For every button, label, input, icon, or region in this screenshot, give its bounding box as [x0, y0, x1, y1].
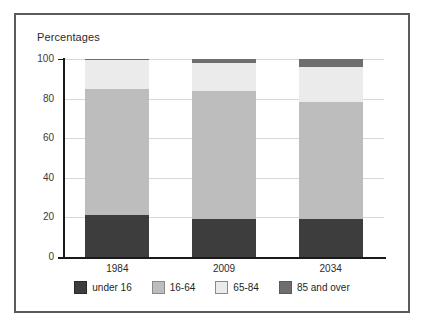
x-axis-label-2034: 2034: [286, 263, 376, 274]
bar-segment: [299, 219, 363, 257]
x-axis-line: [58, 257, 386, 259]
y-axis-tick-label: 80: [16, 94, 54, 104]
y-axis-tick-label: 100: [16, 54, 54, 64]
y-axis-tick-label: 60: [16, 133, 54, 143]
legend-item[interactable]: 65-84: [215, 281, 259, 294]
chart-legend: under 1616-6465-8485 and over: [16, 281, 408, 294]
legend-label: 16-64: [170, 282, 196, 293]
y-axis-tick-value: 0: [48, 252, 54, 262]
legend-item[interactable]: 16-64: [152, 281, 196, 294]
y-axis-tick-label: 0: [16, 252, 54, 262]
y-axis-tick-value: 40: [43, 173, 54, 183]
plot-area: [64, 59, 384, 257]
bar-segment: [85, 215, 149, 257]
legend-swatch-icon: [279, 281, 292, 294]
bar-segment: [299, 102, 363, 220]
y-axis-tick-value: 20: [43, 212, 54, 222]
chart-frame: Percentages 020406080100 198420092034 un…: [14, 13, 410, 313]
bar-segment: [85, 59, 149, 60]
legend-label: 85 and over: [297, 282, 350, 293]
x-axis-label-2009: 2009: [179, 263, 269, 274]
bar-1984: [85, 59, 149, 257]
bar-segment: [192, 91, 256, 220]
y-axis-tick-label: 20: [16, 212, 54, 222]
y-axis-tick-value: 60: [43, 133, 54, 143]
bar-2009: [192, 59, 256, 257]
y-axis-tick-value: 100: [37, 54, 54, 64]
bar-segment: [85, 89, 149, 216]
y-axis-title: Percentages: [37, 31, 100, 43]
bar-segment: [85, 60, 149, 89]
legend-swatch-icon: [74, 281, 87, 294]
legend-swatch-icon: [215, 281, 228, 294]
bar-segment: [299, 67, 363, 102]
legend-swatch-icon: [152, 281, 165, 294]
x-axis-label-1984: 1984: [72, 263, 162, 274]
legend-item[interactable]: under 16: [74, 281, 131, 294]
bar-segment: [192, 59, 256, 63]
bar-2034: [299, 59, 363, 257]
bar-segment: [192, 63, 256, 91]
bar-segment: [299, 59, 363, 67]
legend-label: 65-84: [233, 282, 259, 293]
legend-label: under 16: [92, 282, 131, 293]
y-axis-tick-value: 80: [43, 94, 54, 104]
bar-segment: [192, 219, 256, 257]
y-axis-tick-label: 40: [16, 173, 54, 183]
legend-item[interactable]: 85 and over: [279, 281, 350, 294]
